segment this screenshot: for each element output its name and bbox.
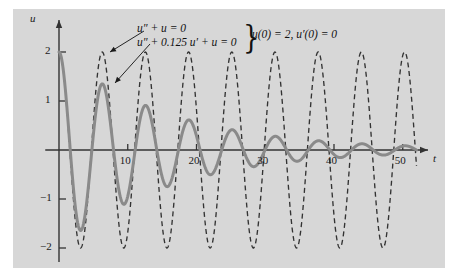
y-tick-label: 2: [45, 44, 51, 56]
x-axis-label: t: [433, 152, 436, 164]
arrow-to-undamped-curve-head: [110, 47, 116, 52]
figure-container: u″ + u = 0 u″ + 0.125 u′ + u = 0 } u(0) …: [0, 0, 458, 278]
equation-damped-label: u″ + 0.125 u′ + u = 0: [137, 36, 237, 50]
x-tick-label: 30: [257, 154, 268, 166]
curve-damped: [59, 52, 417, 230]
y-axis-arrowhead: [56, 20, 62, 28]
y-axis-label: u: [30, 12, 36, 24]
x-tick-label: 10: [120, 154, 131, 166]
initial-conditions-label: u(0) = 2, u′(0) = 0: [252, 28, 337, 40]
equation-annotations: u″ + u = 0 u″ + 0.125 u′ + u = 0: [137, 22, 237, 49]
equation-undamped-label: u″ + u = 0: [137, 22, 237, 36]
y-tick-label: −1: [40, 191, 52, 203]
y-tick-label: −2: [40, 240, 52, 252]
arrow-to-damped-curve: [115, 44, 150, 83]
axes-group: [45, 20, 428, 262]
y-tick-label: 1: [45, 93, 51, 105]
x-tick-label: 50: [395, 154, 406, 166]
x-tick-label: 40: [326, 154, 337, 166]
x-tick-label: 20: [189, 154, 200, 166]
x-axis-arrowhead: [420, 147, 428, 153]
